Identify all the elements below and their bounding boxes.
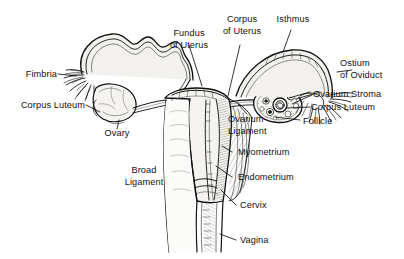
label-fimbria: Fimbria bbox=[0, 69, 57, 80]
label-corpus-of-uterus-line2: of Uterus bbox=[212, 26, 272, 37]
label-vagina: Vagina bbox=[240, 235, 290, 246]
label-endometrium: Endometrium bbox=[238, 172, 318, 183]
label-ovarium-ligament-line1: Ovarium bbox=[228, 114, 286, 125]
label-corpus-luteum-left: Corpus Luteum bbox=[0, 100, 85, 111]
label-myometrium: Myometrium bbox=[238, 147, 316, 158]
label-ovarium-stroma: Ovarium Stroma bbox=[313, 89, 404, 100]
label-follicle: Follicle bbox=[303, 116, 363, 127]
label-ovary: Ovary bbox=[99, 128, 135, 139]
label-fundus-of-uterus-line2: of Uterus bbox=[158, 40, 220, 51]
label-ostium-of-oviduct-line1: Ostium bbox=[340, 58, 404, 69]
label-corpus-of-uterus-line1: Corpus bbox=[212, 14, 272, 25]
label-fundus-of-uterus-line1: Fundus bbox=[158, 28, 220, 39]
diagram-artwork bbox=[0, 0, 404, 259]
label-broad-ligament-line1: Broad bbox=[113, 165, 175, 176]
label-corpus-luteum-right: Corpus Luteum bbox=[311, 102, 403, 113]
anatomical-diagram bbox=[0, 0, 404, 259]
label-cervix: Cervix bbox=[240, 200, 290, 211]
label-broad-ligament-line2: Ligament bbox=[113, 177, 175, 188]
label-ovarium-ligament-line2: Ligament bbox=[228, 126, 286, 137]
label-ostium-of-oviduct-line2: of Oviduct bbox=[340, 70, 404, 81]
label-isthmus: Isthmus bbox=[268, 14, 318, 25]
